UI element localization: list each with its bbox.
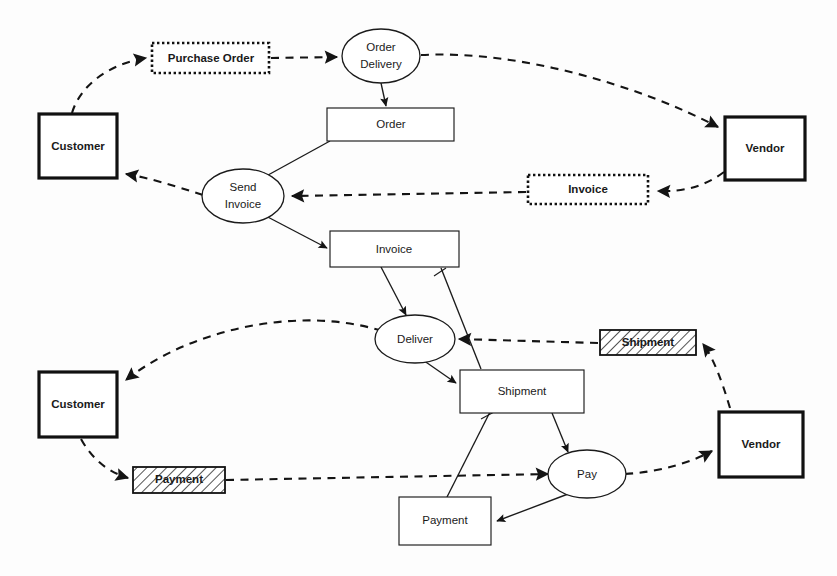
- node-invoice-message[interactable]: Invoice: [528, 175, 648, 204]
- node-deliver-activity[interactable]: Deliver: [375, 315, 455, 363]
- process-collaboration-diagram: Customer Purchase Order Order Delivery O…: [0, 0, 837, 576]
- node-vendor-bottom[interactable]: Vendor: [719, 412, 803, 477]
- edge-invoice-doc-to-deliver: [381, 267, 406, 315]
- edge-purchase-order-to-order-delivery: [271, 57, 337, 58]
- edge-pay-to-vendor: [625, 451, 712, 474]
- edge-payment-physical-to-pay: [226, 474, 548, 480]
- node-payment-document[interactable]: Payment: [399, 497, 491, 545]
- node-customer-top[interactable]: Customer: [39, 114, 117, 178]
- edge-order-delivery-to-order-doc: [381, 83, 386, 106]
- node-invoice-document[interactable]: Invoice: [330, 231, 459, 267]
- node-customer-bottom[interactable]: Customer: [39, 372, 117, 437]
- edge-order-doc-to-send-invoice: [259, 141, 330, 180]
- edge-customer-to-purchase-order: [72, 58, 146, 113]
- node-order-delivery-activity[interactable]: Order Delivery: [342, 29, 420, 83]
- edge-invoice-message-to-send-invoice: [292, 192, 526, 196]
- edge-order-delivery-to-vendor: [421, 55, 718, 127]
- node-vendor-top[interactable]: Vendor: [725, 117, 805, 180]
- node-shipment-document[interactable]: Shipment: [460, 370, 584, 413]
- edge-pay-to-payment-doc: [497, 494, 568, 521]
- node-pay-activity[interactable]: Pay: [548, 450, 626, 498]
- diagram-canvas: Customer Purchase Order Order Delivery O…: [0, 0, 837, 576]
- node-send-invoice-activity[interactable]: Send Invoice: [202, 169, 284, 223]
- edge-send-invoice-to-invoice-doc: [262, 214, 327, 248]
- edge-shipment-physical-to-deliver: [459, 339, 598, 343]
- node-payment-physical[interactable]: Payment: [133, 467, 225, 493]
- edge-payment-doc-to-shipment-doc: [447, 412, 490, 497]
- edge-vendor-to-invoice-message: [658, 172, 724, 191]
- edge-send-invoice-to-customer: [126, 174, 203, 195]
- edge-vendor-to-shipment-physical: [703, 344, 730, 408]
- edge-shipment-doc-to-pay: [552, 413, 568, 452]
- edge-customer-to-payment-physical: [81, 439, 128, 478]
- node-shipment-physical[interactable]: Shipment: [600, 330, 696, 355]
- node-order-document[interactable]: Order: [327, 108, 454, 141]
- edge-deliver-to-customer: [126, 320, 382, 380]
- node-purchase-order-message[interactable]: Purchase Order: [152, 43, 269, 73]
